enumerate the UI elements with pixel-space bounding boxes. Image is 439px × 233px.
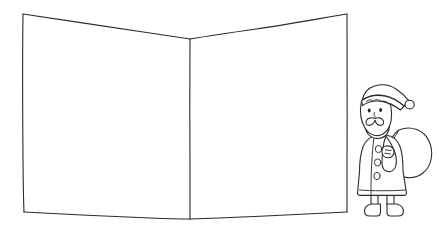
right-panel[interactable] [190, 14, 347, 219]
santa-coat-buttons [374, 145, 382, 179]
santa-boots [365, 204, 404, 216]
line-drawing [0, 0, 439, 233]
santa-hat-pompom [405, 100, 414, 109]
santa-claus-figure[interactable] [358, 85, 432, 216]
santa-hand [382, 146, 394, 158]
illustration-canvas: Open blank greeting card with Santa Clau… [0, 0, 439, 233]
santa-eye-left [368, 109, 371, 113]
santa-eye-right [379, 108, 382, 112]
open-greeting-card[interactable] [23, 14, 348, 219]
left-panel[interactable] [23, 14, 190, 219]
